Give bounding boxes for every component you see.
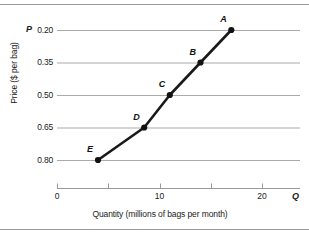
y-tick-label-wrap: 0.65 [0, 122, 53, 133]
data-point-a [228, 27, 234, 33]
y-axis-title: Price ($ per bag) [9, 23, 19, 123]
point-label-a: A [220, 14, 227, 24]
point-label-d: D [133, 112, 140, 122]
y-tick-label: 0.35 [7, 57, 53, 67]
y-tick-label: 0.65 [7, 122, 53, 132]
x-axis-symbol: Q [292, 191, 299, 201]
x-tick-label: 20 [247, 191, 277, 201]
y-tick-label-wrap: 0.80 [0, 155, 53, 166]
x-tick-label: 0 [42, 191, 72, 201]
y-tick-label-wrap: 0.50 [0, 90, 53, 101]
x-tick-label: 10 [145, 191, 175, 201]
y-tick-label: 0.20 [7, 25, 53, 35]
data-point-e [95, 157, 101, 163]
y-tick-label-wrap: 0.35 [0, 57, 53, 68]
point-label-e: E [87, 144, 93, 154]
x-axis-title: Quantity (millions of bags per month) [57, 209, 263, 219]
gridlines-group [57, 31, 300, 161]
y-tick-label: 0.80 [7, 155, 53, 165]
figure-container: Price ($ per bag) Quantity (millions of … [0, 0, 309, 235]
y-tick-label: 0.50 [7, 90, 53, 100]
data-point-b [197, 59, 203, 65]
y-tick-label-wrap: 0.20 [0, 25, 53, 36]
x-axis-ticks-group [58, 184, 263, 189]
data-point-d [141, 124, 147, 130]
point-label-b: B [190, 47, 197, 57]
data-point-c [167, 92, 173, 98]
point-label-c: C [159, 79, 166, 89]
